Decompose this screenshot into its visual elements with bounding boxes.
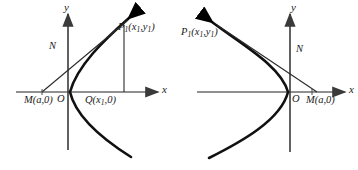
q-head: Q xyxy=(85,94,93,105)
figure-canvas: y x O N P1(x1,y1) M(a,0) Q(x1,0) xyxy=(0,0,358,170)
x-axis-label: x xyxy=(162,84,167,95)
point-label-Q: Q(x1,0) xyxy=(85,95,116,107)
secant-line-MP1 xyxy=(42,20,128,92)
panel-right: y x O N P1(x1,y1) M(a,0) xyxy=(179,0,358,170)
m-rest: (a,0) xyxy=(33,94,53,105)
q-open: (x xyxy=(93,94,101,105)
point-label-N: N xyxy=(296,44,303,55)
point-label-M: M(a,0) xyxy=(24,95,53,106)
origin-label: O xyxy=(57,94,65,105)
y-axis-label: y xyxy=(291,2,296,13)
parabola-curve xyxy=(70,18,131,157)
p1-close: ) xyxy=(151,21,155,32)
m-head: M xyxy=(306,94,315,105)
parabola-curve xyxy=(209,22,288,158)
point-label-P1: P1(x1,y1) xyxy=(181,27,218,39)
p1-close: ) xyxy=(214,26,218,37)
point-label-N: N xyxy=(49,41,56,52)
panel-left: y x O N P1(x1,y1) M(a,0) Q(x1,0) xyxy=(0,0,179,170)
q-close: ,0) xyxy=(105,94,116,105)
origin-label: O xyxy=(292,94,300,105)
m-rest: (a,0) xyxy=(315,94,335,105)
secant-line-P1M xyxy=(217,25,317,92)
x-axis-label: x xyxy=(349,84,354,95)
m-head: M xyxy=(24,94,33,105)
point-label-P1: P1(x1,y1) xyxy=(118,22,155,34)
y-axis-label: y xyxy=(64,2,69,13)
point-label-M: M(a,0) xyxy=(306,95,335,106)
